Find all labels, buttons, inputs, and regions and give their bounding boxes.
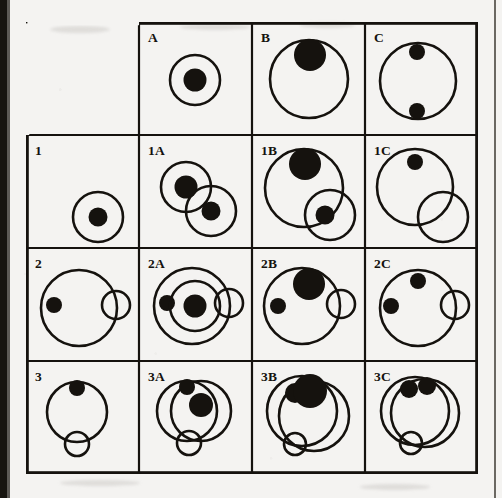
cell-label-r3c1: 3A [148,370,165,384]
outline-circle-r3c0-2 [65,432,89,456]
filled-dot-r2c1-4 [184,295,207,318]
filled-dot-r1c3-1 [407,154,423,170]
outline-circle-r1c3-2 [418,192,468,242]
matrix-cell-r0c2 [270,39,348,118]
cell-label-r1c0: 1 [35,144,42,158]
cell-label-r3c0: 3 [35,370,42,384]
cell-label-r0c3: C [374,31,384,45]
filled-dot-r3c2-3 [293,374,327,408]
filled-dot-r0c3-1 [409,44,425,60]
cell-label-r3c2: 3B [261,370,277,384]
cell-label-r2c1: 2A [148,257,165,271]
filled-dot-r1c0-1 [89,208,108,227]
matrix-cell-r0c1 [170,55,220,105]
filled-dot-r2c0-1 [46,297,62,313]
grid-lines [26,22,478,474]
matrix-cell-r1c0 [73,192,123,242]
filled-dot-r0c2-1 [294,39,326,71]
cell-label-r0c2: B [261,31,270,45]
outline-circle-r3c1-4 [177,431,201,455]
filled-dot-r3c1-3 [189,393,213,417]
cell-label-r2c3: 2C [374,257,391,271]
matrix-cell-r3c3 [381,377,459,454]
cell-label-r1c2: 1B [261,144,277,158]
matrix-svg-canvas [26,22,478,474]
matrix-cell-r2c2 [264,268,355,344]
matrix-cell-r0c3 [380,43,456,119]
cell-label-r3c3: 3C [374,370,391,384]
cell-label-r0c1: A [148,31,158,45]
filled-dot-r1c2-1 [289,148,321,180]
matrix-cell-r1c1 [161,162,236,236]
filled-dot-r2c2-1 [270,298,286,314]
paper-smudge [60,480,140,486]
matrix-cell-r2c1 [154,268,243,344]
matrix-cell-r2c3 [380,270,469,346]
page-left-edge-gutter [7,0,10,498]
matrix-cell-r1c2 [265,148,355,240]
cell-label-r1c1: 1A [148,144,165,158]
matrix-cell-r2c0 [41,270,130,346]
cell-label-r1c3: 1C [374,144,391,158]
filled-dot-r2c3-1 [383,298,399,314]
filled-dot-r3c3-3 [418,377,436,395]
matrix-cell-r3c2 [267,374,349,455]
cell-label-r2c2: 2B [261,257,277,271]
filled-dot-r2c3-3 [410,273,426,289]
cell-label-r2c0: 2 [35,257,42,271]
matrix-grid: ABC11A1B1C22A2B2C33A3B3C [26,22,478,474]
page-background: ABC11A1B1C22A2B2C33A3B3C [0,0,502,498]
filled-dot-r2c2-3 [293,268,325,300]
filled-dot-r0c1-1 [184,69,207,92]
matrix-cell-r1c3 [377,149,468,242]
filled-dot-r3c3-2 [400,380,418,398]
paper-smudge [360,484,430,490]
filled-dot-r1c1-3 [202,202,221,221]
filled-dot-r3c0-1 [69,380,85,396]
page-right-rule [494,0,496,498]
filled-dot-r3c1-2 [179,379,195,395]
matrix-cell-r3c1 [157,379,231,455]
filled-dot-r0c3-2 [409,103,425,119]
filled-dot-r1c1-1 [175,176,198,199]
page-left-edge-shadow [0,0,7,498]
filled-dot-r1c2-3 [316,206,335,225]
matrix-cell-r3c0 [47,380,107,456]
